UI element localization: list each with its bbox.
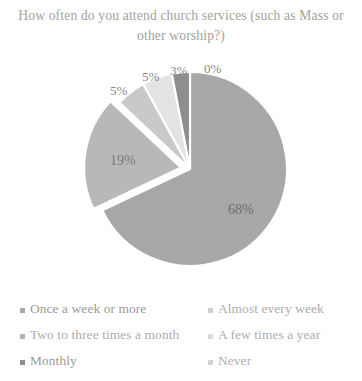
legend-item-a-few-times-a-year[interactable]: A few times a year [208, 322, 320, 348]
pie-chart-svg [0, 52, 362, 284]
legend-item-label: Monthly [30, 353, 77, 369]
chart-title: How often do you attend church services … [14, 6, 348, 46]
pie-slice-group [84, 72, 287, 266]
legend-swatch-icon [208, 360, 213, 365]
pie-chart [0, 52, 362, 284]
chart-legend: Once a week or more Almost every week Tw… [0, 296, 362, 378]
legend-item-never[interactable]: Never [208, 348, 251, 374]
legend-swatch-icon [20, 334, 25, 339]
data-label-two-to-three-times-a-month: 5% [110, 84, 128, 98]
legend-item-label: Two to three times a month [30, 327, 179, 343]
legend-swatch-icon [20, 360, 25, 365]
legend-row: Monthly Never [0, 348, 362, 374]
legend-item-label: Never [218, 353, 251, 369]
data-label-never: 0% [204, 62, 222, 76]
legend-row: Two to three times a month A few times a… [0, 322, 362, 348]
legend-item-label: Almost every week [218, 301, 324, 317]
legend-swatch-icon [20, 308, 25, 313]
legend-item-label: Once a week or more [30, 301, 146, 317]
data-label-a-few-times-a-year: 5% [142, 70, 160, 84]
legend-swatch-icon [208, 334, 213, 339]
legend-item-monthly[interactable]: Monthly [20, 348, 77, 374]
legend-item-two-to-three-times-a-month[interactable]: Two to three times a month [20, 322, 179, 348]
legend-item-label: A few times a year [218, 327, 320, 343]
legend-item-once-a-week-or-more[interactable]: Once a week or more [20, 296, 146, 322]
legend-swatch-icon [208, 308, 213, 313]
legend-row: Once a week or more Almost every week [0, 296, 362, 322]
data-label-monthly: 3% [170, 64, 188, 78]
data-label-once-a-week-or-more: 68% [228, 203, 254, 217]
legend-item-almost-every-week[interactable]: Almost every week [208, 296, 324, 322]
data-label-almost-every-week: 19% [110, 154, 136, 168]
